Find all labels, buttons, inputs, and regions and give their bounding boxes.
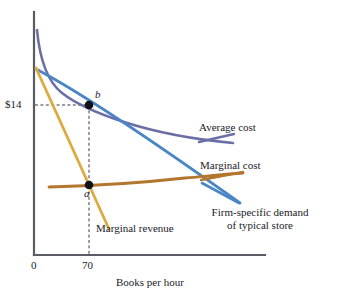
series-label-marginal-cost: Marginal cost: [200, 159, 261, 171]
series-label-marginal-revenue: Marginal revenue: [96, 222, 174, 234]
x-axis-title: Books per hour: [116, 276, 184, 288]
y-axis-value-label: $14: [5, 98, 22, 110]
series-label-demand-line2: of typical store: [190, 219, 330, 232]
chart-canvas: [0, 0, 339, 297]
point-b-label: b: [95, 88, 101, 100]
economics-figure: $14 0 70 Books per hour b a Average cost…: [0, 0, 339, 297]
x-tick-label-70: 70: [82, 259, 93, 271]
x-tick-label-0: 0: [31, 259, 37, 271]
point-a-label: a: [84, 187, 90, 199]
series-label-demand-line1: Firm-specific demand: [190, 206, 330, 219]
point-b-marker: [85, 101, 94, 110]
series-label-demand: Firm-specific demand of typical store: [190, 206, 330, 231]
leader-demand: [202, 183, 239, 203]
series-label-average-cost: Average cost: [199, 121, 256, 133]
